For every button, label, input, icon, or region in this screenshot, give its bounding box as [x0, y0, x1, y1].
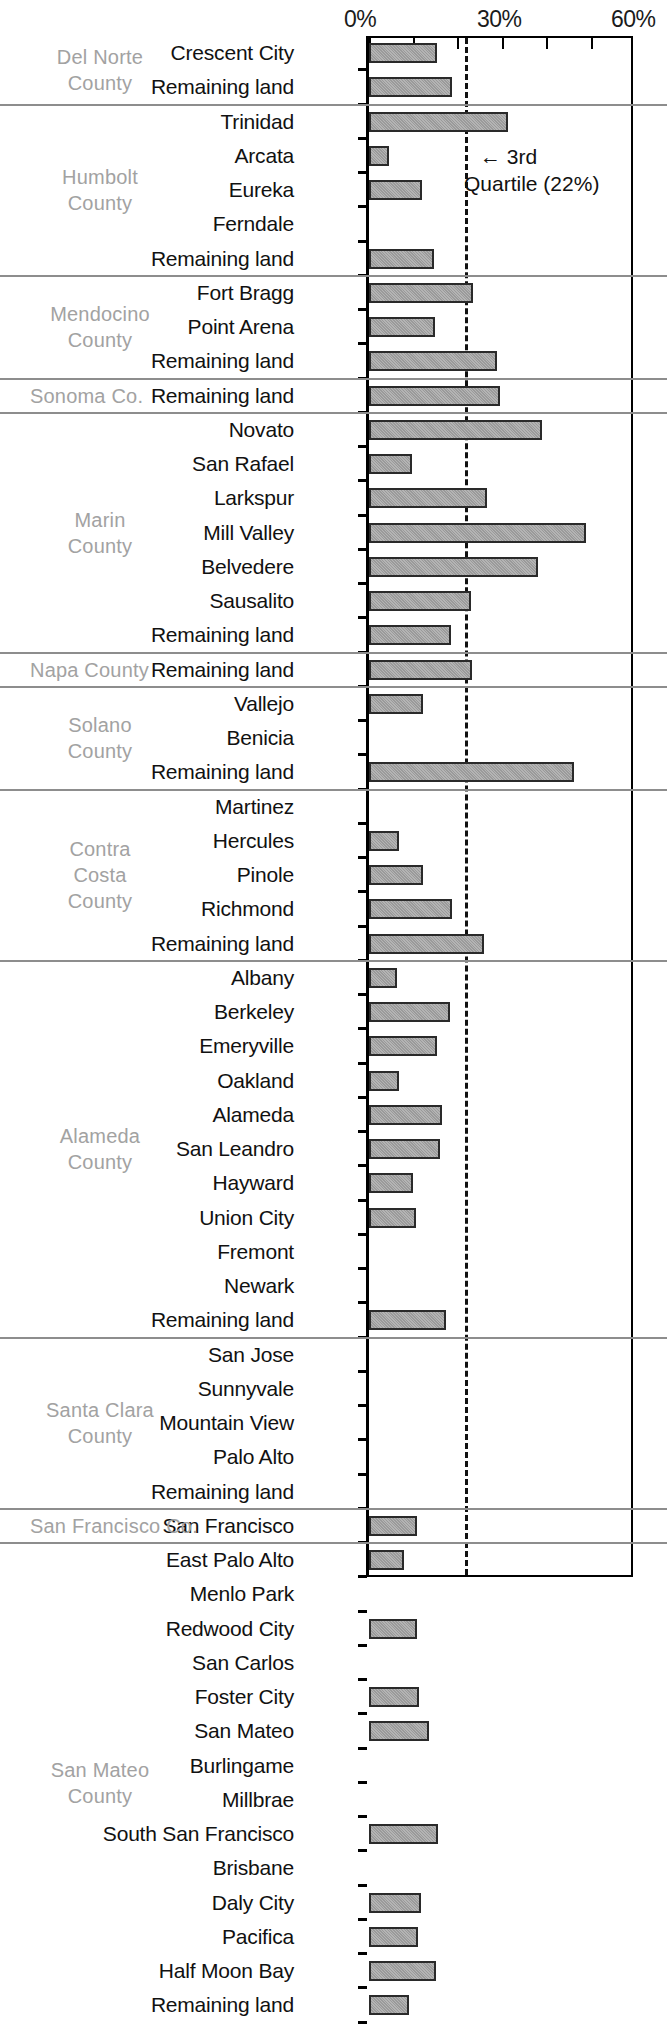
- row-label: Benicia: [227, 721, 294, 755]
- chart-row: San Carlos: [0, 1646, 667, 1680]
- bar: [369, 249, 434, 269]
- county-group-divider: [0, 1337, 667, 1339]
- bar-container: [369, 1961, 436, 1981]
- bar-container: [369, 523, 586, 543]
- bar-container: [369, 1516, 417, 1536]
- row-label: Remaining land: [151, 927, 294, 961]
- county-group-label: Del NorteCounty: [0, 44, 200, 96]
- row-label: Pinole: [237, 858, 294, 892]
- bar: [369, 694, 423, 714]
- bar-container: [369, 1002, 450, 1022]
- row-label: South San Francisco: [103, 1817, 294, 1851]
- bar-container: [369, 1893, 421, 1913]
- bar: [369, 1310, 446, 1330]
- row-label: Half Moon Bay: [159, 1954, 294, 1988]
- county-label-line: Del Norte: [0, 44, 200, 70]
- bar: [369, 1516, 417, 1536]
- row-label: Novato: [229, 413, 294, 447]
- bar-container: [369, 1139, 440, 1159]
- bar: [369, 899, 452, 919]
- bar: [369, 77, 452, 97]
- county-label-line: Humbolt: [0, 164, 200, 190]
- bar: [369, 1550, 404, 1570]
- bar-container: [369, 1721, 429, 1741]
- bar-container: [369, 591, 471, 611]
- row-label: Foster City: [195, 1680, 294, 1714]
- chart-row: Menlo Park: [0, 1577, 667, 1611]
- row-label: Newark: [224, 1269, 294, 1303]
- bar: [369, 180, 422, 200]
- county-label-line: Napa County: [30, 657, 340, 683]
- chart-row: Remaining land: [0, 618, 667, 652]
- bar: [369, 660, 472, 680]
- row-label: Trinidad: [221, 105, 295, 139]
- bar-container: [369, 112, 508, 132]
- county-label-line: County: [0, 1783, 200, 1809]
- bar-container: [369, 420, 542, 440]
- row-label: Berkeley: [214, 995, 294, 1029]
- bar-container: [369, 1071, 399, 1091]
- bar-container: [369, 1550, 404, 1570]
- bar: [369, 557, 538, 577]
- bar-container: [369, 694, 423, 714]
- bar-container: [369, 1619, 417, 1639]
- row-label: Sausalito: [209, 584, 294, 618]
- bar: [369, 317, 435, 337]
- quartile-annotation-line1: ← 3rd: [480, 143, 537, 170]
- county-group-divider: [0, 1542, 667, 1544]
- county-group-label: MendocinoCounty: [0, 301, 200, 353]
- bar: [369, 1036, 437, 1056]
- bar-container: [369, 146, 389, 166]
- county-group-label: Sonoma Co.: [0, 383, 340, 409]
- county-label-line: County: [0, 1423, 200, 1449]
- row-label: Emeryville: [199, 1029, 294, 1063]
- chart-row: Newark: [0, 1269, 667, 1303]
- county-group-label: MarinCounty: [0, 507, 200, 559]
- row-label: Vallejo: [234, 687, 294, 721]
- bar: [369, 112, 508, 132]
- bar: [369, 1105, 442, 1125]
- county-label-line: Alameda: [0, 1123, 200, 1149]
- bar: [369, 762, 574, 782]
- row-tick: [358, 2021, 367, 2024]
- bar-container: [369, 386, 500, 406]
- row-label: Menlo Park: [190, 1577, 294, 1611]
- bar: [369, 1173, 413, 1193]
- county-group-label: San MateoCounty: [0, 1757, 200, 1809]
- bar-container: [369, 1687, 419, 1707]
- bar: [369, 865, 423, 885]
- county-label-line: Costa: [0, 862, 200, 888]
- bar-container: [369, 1173, 413, 1193]
- county-label-line: San Mateo: [0, 1757, 200, 1783]
- bar: [369, 1995, 409, 2015]
- county-label-line: Sonoma Co.: [30, 383, 340, 409]
- bar-container: [369, 831, 399, 851]
- county-group-divider: [0, 686, 667, 688]
- bar: [369, 831, 399, 851]
- bar: [369, 146, 389, 166]
- county-label-line: County: [0, 1149, 200, 1175]
- bar: [369, 454, 412, 474]
- row-label: Redwood City: [166, 1612, 294, 1646]
- bar-container: [369, 1927, 418, 1947]
- chart-row: San Jose: [0, 1338, 667, 1372]
- bar-container: [369, 351, 497, 371]
- county-group-label: Santa ClaraCounty: [0, 1397, 200, 1449]
- bar-container: [369, 1208, 416, 1228]
- bar: [369, 968, 397, 988]
- bar: [369, 934, 484, 954]
- chart-row: South San Francisco: [0, 1817, 667, 1851]
- row-label: Daly City: [212, 1886, 294, 1920]
- row-label: Hercules: [213, 824, 294, 858]
- chart-row: Sausalito: [0, 584, 667, 618]
- chart-row: Half Moon Bay: [0, 1954, 667, 1988]
- county-group-label: AlamedaCounty: [0, 1123, 200, 1175]
- row-label: Albany: [231, 961, 294, 995]
- bar: [369, 1893, 421, 1913]
- county-group-divider: [0, 412, 667, 414]
- bar: [369, 1824, 438, 1844]
- county-label-line: County: [0, 190, 200, 216]
- row-label: Richmond: [201, 892, 294, 926]
- chart-row: Remaining land: [0, 242, 667, 276]
- row-label: Point Arena: [188, 310, 294, 344]
